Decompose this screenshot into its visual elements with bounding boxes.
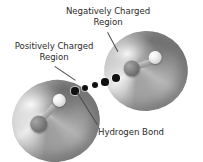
label-hydrogen-bond: Hydrogen Bond bbox=[98, 127, 164, 138]
label-positive-line2: Region bbox=[6, 52, 102, 63]
label-negative-line1: Negatively Charged bbox=[66, 6, 150, 16]
label-negatively-charged-region: Negatively Charged Region bbox=[61, 6, 155, 27]
label-positively-charged-region: Positively Charged Region bbox=[6, 41, 102, 62]
hydrogen-bond-diagram: Negatively Charged Region Positively Cha… bbox=[0, 0, 203, 162]
water-molecule-upper-right bbox=[100, 27, 192, 115]
label-negative-line2: Region bbox=[61, 17, 155, 28]
label-hydrogen-bond-text: Hydrogen Bond bbox=[98, 127, 164, 137]
hydrogen-bond-dot bbox=[92, 82, 99, 89]
electron-cloud-disc bbox=[100, 27, 192, 115]
label-positive-line1: Positively Charged bbox=[15, 41, 94, 51]
leader-line-positive-region bbox=[54, 66, 75, 81]
